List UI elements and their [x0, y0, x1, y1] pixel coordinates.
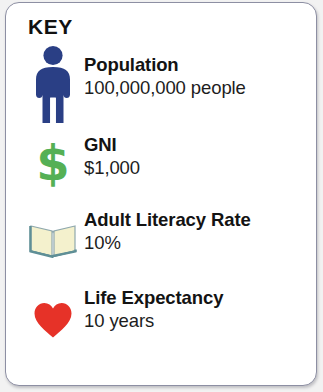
page-title: KEY [28, 16, 308, 37]
legend-text-life-expectancy: Life Expectancy 10 years [84, 281, 308, 332]
legend-value-gni: $1,000 [84, 157, 308, 180]
dollar-sign-icon: $ [22, 127, 84, 203]
legend-label-gni: GNI [84, 134, 308, 156]
legend-list: Population 100,000,000 people $ GNI $1,0… [22, 41, 308, 359]
key-legend-card: KEY Population 100,000,000 people [5, 2, 317, 386]
legend-label-life-expectancy: Life Expectancy [84, 287, 308, 309]
legend-text-gni: GNI $1,000 [84, 127, 308, 179]
legend-text-adult-literacy-rate: Adult Literacy Rate 10% [84, 203, 308, 254]
legend-text-population: Population 100,000,000 people [84, 41, 308, 99]
legend-value-life-expectancy: 10 years [84, 310, 308, 333]
dollar-sign-glyph: $ [36, 139, 69, 187]
legend-value-population: 100,000,000 people [84, 77, 308, 100]
heart-icon [22, 281, 84, 359]
person-icon [22, 41, 84, 127]
legend-value-adult-literacy-rate: 10% [84, 232, 308, 255]
open-book-icon [22, 203, 84, 281]
legend-label-adult-literacy-rate: Adult Literacy Rate [84, 209, 308, 231]
legend-item-life-expectancy: Life Expectancy 10 years [22, 281, 308, 359]
legend-item-population: Population 100,000,000 people [22, 41, 308, 127]
legend-item-gni: $ GNI $1,000 [22, 127, 308, 203]
legend-item-adult-literacy-rate: Adult Literacy Rate 10% [22, 203, 308, 281]
legend-label-population: Population [84, 54, 308, 76]
